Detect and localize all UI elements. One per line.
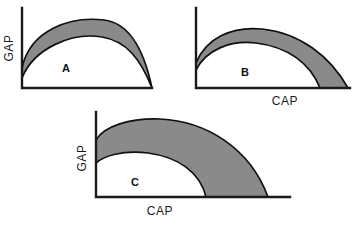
panel-b-x-axis-label: CAP <box>272 94 298 108</box>
figure-root: A GAP B CAP C GAP CAP <box>0 0 359 234</box>
panel-c-letter: C <box>131 176 139 188</box>
panel-a-letter: A <box>62 62 70 74</box>
panel-c-y-axis-label: GAP <box>75 144 89 171</box>
three-panel-gap-cap-figure: A GAP B CAP C GAP CAP <box>0 0 359 234</box>
panel-c-x-axis-label: CAP <box>147 204 173 218</box>
panel-a-y-axis-label: GAP <box>2 34 16 61</box>
panel-b-letter: B <box>241 66 249 78</box>
